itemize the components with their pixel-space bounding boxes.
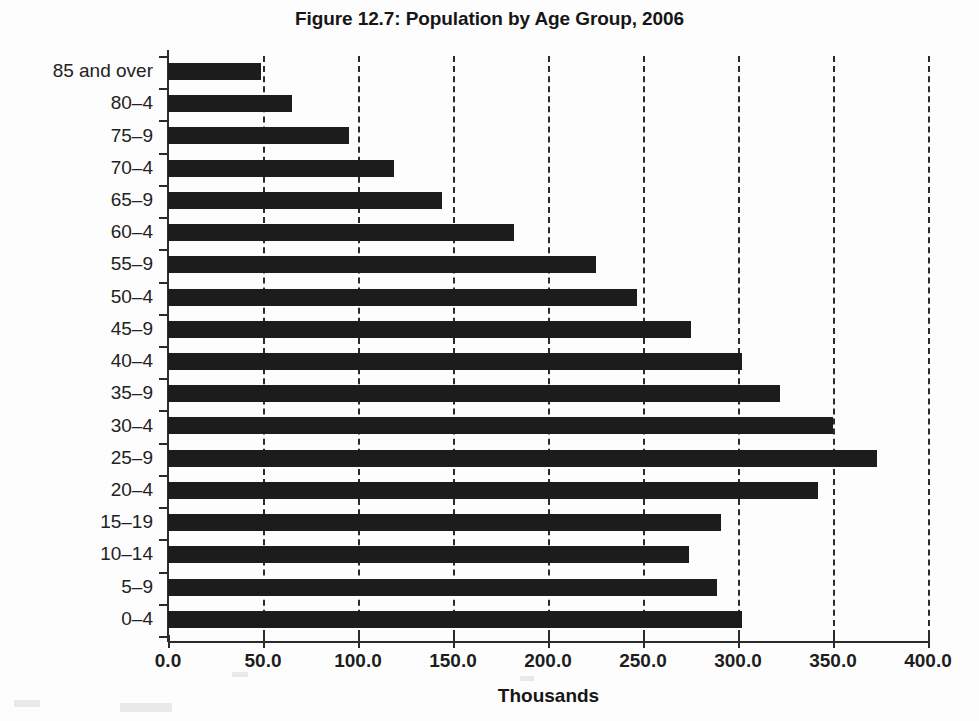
y-tick-label: 75–9 — [0, 125, 153, 147]
y-tick — [159, 282, 168, 284]
bar-row — [168, 153, 928, 185]
y-tick — [159, 410, 168, 412]
bar-5–9[interactable] — [168, 579, 717, 596]
x-tick-label: 0.0 — [123, 650, 213, 672]
y-tick — [159, 346, 168, 348]
y-tick — [159, 572, 168, 574]
x-tick-label: 400.0 — [883, 650, 973, 672]
y-tick — [159, 249, 168, 251]
bar-row — [168, 282, 928, 314]
bar-row — [168, 88, 928, 120]
x-tick-label: 250.0 — [598, 650, 688, 672]
y-tick-label: 45–9 — [0, 318, 153, 340]
bar-75–9[interactable] — [168, 127, 349, 144]
y-tick — [159, 314, 168, 316]
bar-20–4[interactable] — [168, 482, 818, 499]
bar-60–4[interactable] — [168, 224, 514, 241]
bar-row — [168, 604, 928, 636]
bar-row — [168, 410, 928, 442]
bar-row — [168, 572, 928, 604]
bar-45–9[interactable] — [168, 321, 691, 338]
y-tick — [159, 378, 168, 380]
y-tick-label: 20–4 — [0, 479, 153, 501]
bar-40–4[interactable] — [168, 353, 742, 370]
y-tick-label: 40–4 — [0, 350, 153, 372]
y-tick — [159, 153, 168, 155]
x-tick-label: 200.0 — [503, 650, 593, 672]
scan-artifact — [14, 700, 40, 707]
bar-70–4[interactable] — [168, 160, 394, 177]
y-tick-label: 80–4 — [0, 92, 153, 114]
x-tick — [168, 635, 170, 648]
scan-artifact — [520, 676, 534, 681]
bar-row — [168, 443, 928, 475]
x-tick — [928, 635, 930, 648]
y-tick-label: 60–4 — [0, 221, 153, 243]
x-tick — [263, 635, 265, 648]
bar-row — [168, 539, 928, 571]
x-tick — [358, 635, 360, 648]
y-tick-label: 50–4 — [0, 286, 153, 308]
y-tick-label: 65–9 — [0, 189, 153, 211]
x-axis-title: Thousands — [168, 685, 929, 707]
x-tick-label: 100.0 — [313, 650, 403, 672]
bar-85-and-over[interactable] — [168, 63, 261, 80]
bar-row — [168, 475, 928, 507]
y-tick — [159, 604, 168, 606]
page-title: Figure 12.7: Population by Age Group, 20… — [0, 8, 979, 30]
bar-row — [168, 249, 928, 281]
x-tick — [643, 635, 645, 648]
bar-80–4[interactable] — [168, 95, 292, 112]
y-tick — [159, 120, 168, 122]
bar-row — [168, 507, 928, 539]
x-tick-label: 350.0 — [788, 650, 878, 672]
y-tick — [159, 539, 168, 541]
x-tick — [453, 635, 455, 648]
bar-15–19[interactable] — [168, 514, 721, 531]
y-tick — [159, 217, 168, 219]
scan-artifact — [120, 703, 172, 712]
bar-0–4[interactable] — [168, 611, 742, 628]
x-tick-label: 150.0 — [408, 650, 498, 672]
bar-55–9[interactable] — [168, 256, 596, 273]
bar-row — [168, 185, 928, 217]
y-tick-label: 25–9 — [0, 447, 153, 469]
gridline-400.0 — [928, 56, 930, 636]
y-tick — [159, 507, 168, 509]
y-tick — [159, 636, 168, 638]
y-tick-label: 30–4 — [0, 415, 153, 437]
y-tick-label: 85 and over — [0, 60, 153, 82]
bar-65–9[interactable] — [168, 192, 442, 209]
bar-row — [168, 120, 928, 152]
bar-row — [168, 378, 928, 410]
y-tick — [159, 475, 168, 477]
y-tick-label: 70–4 — [0, 157, 153, 179]
plot-area — [168, 56, 928, 636]
bar-row — [168, 346, 928, 378]
y-tick — [159, 56, 168, 58]
y-tick-label: 0–4 — [0, 608, 153, 630]
y-tick-label: 15–19 — [0, 511, 153, 533]
x-tick — [833, 635, 835, 648]
bar-row — [168, 314, 928, 346]
bar-25–9[interactable] — [168, 450, 877, 467]
x-tick — [548, 635, 550, 648]
x-tick — [738, 635, 740, 648]
y-tick — [159, 185, 168, 187]
bar-row — [168, 56, 928, 88]
bar-row — [168, 217, 928, 249]
y-tick-label: 35–9 — [0, 382, 153, 404]
figure-container: Figure 12.7: Population by Age Group, 20… — [0, 0, 979, 721]
y-tick — [159, 88, 168, 90]
y-tick-label: 55–9 — [0, 253, 153, 275]
x-tick-label: 50.0 — [218, 650, 308, 672]
scan-artifact — [232, 672, 248, 677]
bar-50–4[interactable] — [168, 289, 637, 306]
x-tick-label: 300.0 — [693, 650, 783, 672]
y-tick-label: 5–9 — [0, 576, 153, 598]
y-tick-label: 10–14 — [0, 543, 153, 565]
bar-30–4[interactable] — [168, 417, 833, 434]
bar-10–14[interactable] — [168, 546, 689, 563]
bar-35–9[interactable] — [168, 385, 780, 402]
y-tick — [159, 443, 168, 445]
